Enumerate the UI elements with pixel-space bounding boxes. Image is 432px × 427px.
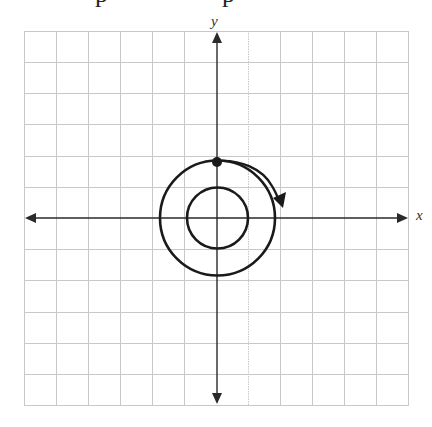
x-axis-label: x bbox=[416, 208, 423, 223]
y-axis-down-arrow-icon bbox=[212, 393, 222, 404]
x-axis-left-arrow-icon bbox=[25, 213, 36, 223]
clockwise-rotation-arrow-icon bbox=[219, 161, 286, 208]
x-axis-right-arrow-icon bbox=[397, 213, 408, 223]
coordinate-plane-figure: p p bbox=[0, 0, 432, 427]
y-axis-up-arrow-icon bbox=[212, 32, 222, 43]
y-axis-label: y bbox=[211, 14, 218, 29]
axes bbox=[25, 32, 408, 404]
